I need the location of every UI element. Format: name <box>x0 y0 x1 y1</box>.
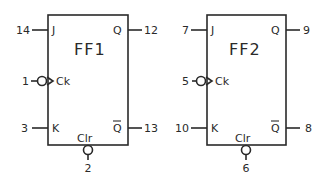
ff2-q-pin-number: 9 <box>303 24 310 37</box>
ff2-clr-pin-number: 6 <box>243 162 250 175</box>
ff2-qbar-label: Q <box>271 122 280 135</box>
ff1-k-label: K <box>52 122 60 135</box>
ff2-j-pin-number: 7 <box>182 24 189 37</box>
ff2-j-label: J <box>210 24 214 37</box>
ff1-qbar-pin-number: 13 <box>144 122 158 135</box>
ff1-qbar-label: Q <box>113 122 122 135</box>
ff1-ck-pin-number: 1 <box>22 75 29 88</box>
flip-flop-ff1: FF1 14 J 1 Ck 3 K 12 Q 13 Q Clr 2 <box>16 15 158 175</box>
ff1-clr-label: Clr <box>77 132 93 145</box>
flip-flop-ff2: FF2 7 J 5 Ck 10 K 9 Q 8 Q Clr 6 <box>175 15 312 175</box>
ff2-qbar-pin-number: 8 <box>305 122 312 135</box>
ff1-ck-inversion-bubble <box>38 77 47 86</box>
ff2-clr-inversion-bubble <box>242 146 251 155</box>
flip-flop-diagram: FF1 14 J 1 Ck 3 K 12 Q 13 Q Clr 2 FF2 <box>0 0 331 180</box>
ff2-ck-inversion-bubble <box>197 77 206 86</box>
ff1-j-pin-number: 14 <box>16 24 30 37</box>
ff2-k-label: K <box>211 122 219 135</box>
ff1-ck-label: Ck <box>56 75 71 88</box>
ff2-clr-label: Clr <box>235 132 251 145</box>
ff1-q-label: Q <box>113 24 122 37</box>
ff1-title: FF1 <box>74 40 106 59</box>
ff2-title: FF2 <box>229 40 261 59</box>
ff1-clr-inversion-bubble <box>84 146 93 155</box>
ff1-clr-pin-number: 2 <box>85 162 92 175</box>
ff2-ck-label: Ck <box>215 75 230 88</box>
ff2-q-label: Q <box>271 24 280 37</box>
ff2-ck-pin-number: 5 <box>182 75 189 88</box>
ff2-k-pin-number: 10 <box>175 122 189 135</box>
ff1-j-label: J <box>51 24 55 37</box>
ff1-k-pin-number: 3 <box>21 122 28 135</box>
ff1-q-pin-number: 12 <box>144 24 158 37</box>
